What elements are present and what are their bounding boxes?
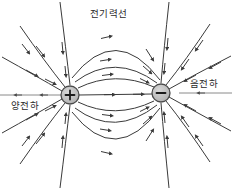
upper-arc-middle-arrow [100, 59, 110, 61]
pos-line-up [60, 2, 70, 85]
pos-line-up-left-steep [20, 26, 65, 87]
pos-line-up-left-shallow [2, 57, 62, 91]
pos-line-down-left-steep [20, 103, 65, 164]
pos-arrow-down-left-shallow-2 [45, 106, 55, 111]
lower-arc-outer-arrow-2 [146, 130, 153, 141]
lower-arc-middle-arrow [100, 129, 110, 131]
lower-arc-arrow-group [100, 108, 153, 154]
neg-arrow-down-right-shallow-2 [185, 105, 196, 111]
neg-arrow-down-2 [164, 113, 165, 123]
pos-arrow-down [62, 137, 63, 148]
upper-arc-outer-arrow-2 [146, 49, 153, 60]
lower-arc-outer-arrow [101, 152, 111, 154]
positive-charge-label: 양전하 [11, 101, 39, 111]
field-lines-label: 전기력선 [90, 9, 128, 19]
center-field-line-group [79, 94, 152, 95]
pos-arrow-down-left-shallow [26, 114, 37, 120]
lower-arc-inner-arrow-2 [140, 108, 148, 112]
lower-arc-inner-arrow [102, 115, 112, 116]
neg-arrow-down [167, 137, 168, 148]
neg-arrow-up-2 [164, 63, 165, 73]
pos-arrow-down-left-steep-2 [22, 137, 29, 146]
upper-arc-outer-arrow [101, 36, 111, 38]
neg-line-down-right-shallow [169, 97, 231, 131]
pos-arrow-up-2 [65, 66, 66, 76]
neg-arrow-down-right-steep [196, 136, 203, 146]
neg-arrow-down-right-steep-2 [182, 117, 189, 127]
upper-arc-inner-arrow [102, 74, 112, 75]
negative-charge-label: 음전하 [190, 79, 218, 89]
neg-arrow-up-right-steep [196, 40, 203, 50]
negative-outer-lines-group [161, 2, 231, 188]
electric-field-diagram: 전기력선 양전하 음전하 [0, 0, 232, 189]
pos-arrow-down-2 [65, 114, 66, 124]
neg-arrow-up-right-steep-2 [182, 59, 189, 69]
pos-arrow-up-left-shallow [26, 70, 37, 76]
neg-line-down-right-steep [166, 101, 210, 162]
pos-arrow-up-left-steep-2 [22, 44, 29, 53]
pos-arrow-up [62, 42, 63, 53]
field-lines-canvas [0, 0, 232, 189]
neg-arrow-up-right-shallow [210, 62, 221, 68]
neg-arrow-up [167, 38, 168, 49]
pos-arrow-up-left-shallow-2 [45, 79, 55, 84]
neg-line-up-right-steep [166, 24, 210, 85]
upper-arc-middle-arrow-2 [143, 66, 151, 73]
lower-arc-middle [75, 105, 157, 122]
pos-line-down [60, 105, 70, 188]
lower-arc-inner [78, 101, 154, 111]
